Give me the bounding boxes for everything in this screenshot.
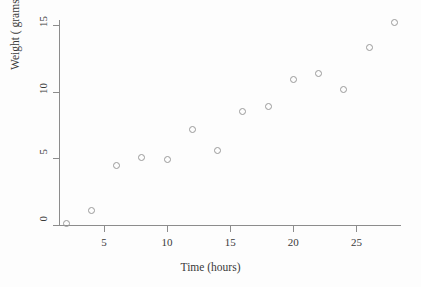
data-point	[138, 154, 145, 161]
y-tick-5	[53, 158, 59, 159]
x-tick-15	[230, 226, 231, 232]
y-axis-title: Weight ( grams)	[9, 0, 21, 70]
data-point	[366, 44, 373, 51]
x-tick-label-20: 20	[281, 237, 305, 248]
y-tick-label-10: 10	[38, 83, 49, 94]
data-point	[315, 70, 322, 77]
data-point	[214, 147, 221, 154]
data-point	[63, 220, 70, 227]
y-tick-label-15: 15	[38, 16, 49, 27]
y-tick-label-0: 0	[38, 216, 49, 222]
x-tick-label-25: 25	[344, 237, 368, 248]
x-tick-label-15: 15	[218, 237, 242, 248]
x-tick-label-10: 10	[155, 237, 179, 248]
x-tick-5	[104, 226, 105, 232]
y-tick-0	[53, 225, 59, 226]
data-point	[239, 108, 246, 115]
data-point	[265, 103, 272, 110]
y-axis-line	[59, 20, 60, 226]
x-tick-label-5: 5	[92, 237, 116, 248]
x-tick-10	[167, 226, 168, 232]
data-point	[88, 207, 95, 214]
plot-area: 051015 510152025 Weight ( grams) Time (h…	[0, 0, 421, 287]
scatter-chart: 051015 510152025 Weight ( grams) Time (h…	[0, 0, 421, 287]
x-tick-20	[293, 226, 294, 232]
y-tick-15	[53, 25, 59, 26]
y-tick-label-5: 5	[38, 149, 49, 155]
data-point	[391, 19, 398, 26]
x-tick-25	[356, 226, 357, 232]
x-axis-title: Time (hours)	[0, 261, 421, 273]
data-point	[164, 156, 171, 163]
data-point	[113, 162, 120, 169]
data-point	[290, 76, 297, 83]
y-tick-10	[53, 92, 59, 93]
data-point	[340, 86, 347, 93]
data-point	[189, 126, 196, 133]
